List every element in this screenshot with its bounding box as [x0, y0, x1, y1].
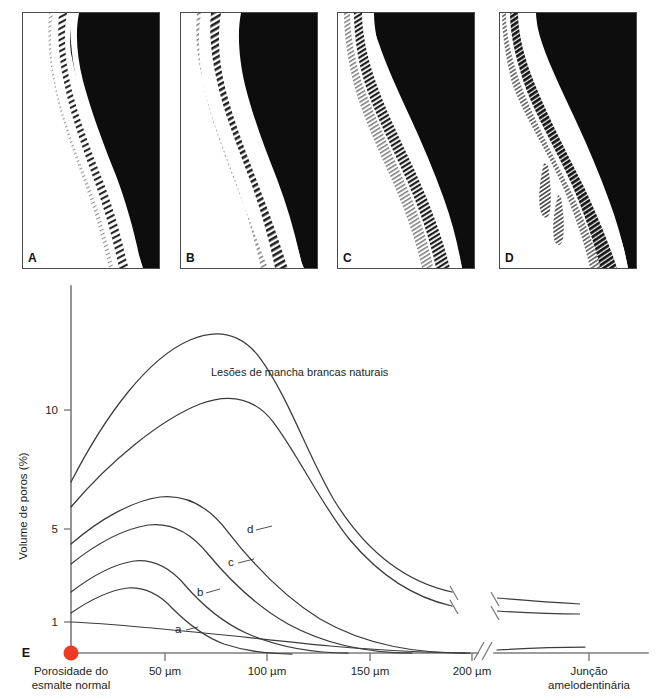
figure-root: A B [0, 0, 657, 697]
origin-marker-dot [64, 646, 79, 661]
curve-label-b-leader [206, 589, 220, 593]
x-origin-label-line1: Porosidade do [34, 665, 108, 677]
curve-label-d: d [247, 523, 253, 535]
microradiograph-panel-b: B [180, 12, 318, 269]
microradiograph-panel-d: D [499, 12, 637, 269]
annotation-natural-white-spot-lesions: Lesões de mancha brancas naturais [211, 366, 389, 378]
curve-lesion-lower-break [450, 600, 499, 620]
curve-lesion-upper-right [497, 598, 580, 604]
panel-a-label: A [28, 251, 37, 265]
curve-label-a: a [175, 623, 182, 635]
curve-label-b: b [197, 586, 203, 598]
curve-label-c: c [228, 556, 234, 568]
panel-b-image [181, 13, 317, 268]
y-tick-label-5: 5 [52, 523, 58, 535]
x-tick-label-50um: 50 µm [149, 665, 181, 677]
panel-b-label: B [186, 251, 195, 265]
curve-lesion-upper-break [450, 586, 499, 606]
x-tick-label-200um: 200 µm [453, 665, 492, 677]
curve-baseline [71, 622, 470, 653]
x-origin-label-line2: esmalte normal [32, 679, 111, 691]
panel-c-label: C [343, 251, 352, 265]
x-tick-label-150um: 150 µm [351, 665, 390, 677]
y-tick-label-10: 10 [45, 404, 58, 416]
y-tick-label-1: 1 [52, 616, 58, 628]
x-axis-break-mark [474, 642, 492, 660]
y-axis-title: Volume de poros (%) [17, 452, 29, 560]
x-axis-ticks [165, 653, 589, 661]
x-tick-label-100um: 100 µm [248, 665, 287, 677]
curve-lesion-lower-right [497, 611, 580, 614]
microradiograph-panel-a: A [22, 12, 160, 269]
porosity-depth-chart: 10 5 1 Volume de poros (%) 50 µm 100 µm … [0, 276, 657, 697]
curve-a [71, 588, 292, 654]
panel-e-label: E [22, 646, 30, 660]
x-end-label-line2: amelodentinária [548, 679, 630, 691]
curve-label-d-leader [256, 526, 272, 530]
panel-d-image [500, 13, 636, 268]
y-axis-ticks [64, 410, 71, 622]
curve-lesion-lower [71, 398, 452, 606]
panel-d-label: D [505, 251, 514, 265]
curve-b [71, 561, 348, 653]
panel-a-image [23, 13, 159, 268]
panel-c-image [338, 13, 474, 268]
x-end-label-line1: Junção [570, 665, 607, 677]
curve-baseline-right [497, 647, 585, 650]
microradiograph-panel-c: C [337, 12, 475, 269]
